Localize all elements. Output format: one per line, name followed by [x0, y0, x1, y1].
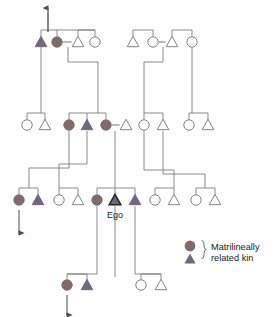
g3-sister-of-ego	[92, 195, 102, 205]
g2-female-filled-1	[64, 120, 74, 130]
g1-male-open-3	[127, 36, 139, 46]
g1-male-open-5	[166, 36, 178, 46]
legend-line-1: Matrilineally	[211, 242, 260, 252]
g3-female-open-2	[150, 195, 160, 205]
g2-female-open-1	[22, 120, 32, 130]
g3-male-open-1	[72, 194, 84, 204]
g3-female-open-1	[54, 195, 64, 205]
legend-filled-circle	[185, 241, 196, 252]
legend-line-2: related kin	[211, 253, 253, 263]
legend-brace	[202, 241, 207, 259]
legend-filled-triangle	[184, 254, 195, 264]
g2-female-open-3	[184, 120, 194, 130]
g1-female-open-4	[148, 37, 158, 47]
g3-female-filled-1	[14, 195, 24, 205]
g2-male-open-1	[39, 119, 51, 129]
kin-symbols	[14, 36, 221, 290]
g4-female-filled-1	[62, 280, 72, 290]
kinship-diagram: Ego Matrilineally related kin	[0, 0, 278, 317]
kinship-diagram-canvas: Ego Matrilineally related kin	[0, 0, 278, 317]
g4-female-open-1	[136, 280, 146, 290]
legend: Matrilineally related kin	[184, 241, 260, 264]
ego-label: Ego	[107, 210, 123, 220]
g1-female-open-6	[187, 37, 197, 47]
descent-lines	[19, 12, 215, 280]
g3-male-filled-1	[32, 194, 44, 204]
continuation-arrows	[19, 8, 67, 315]
g2-male-open-3	[202, 119, 214, 129]
g2-male-open-2	[157, 119, 169, 129]
g2-mother-of-ego	[101, 120, 111, 130]
g1-female-open-2	[90, 37, 100, 47]
g4-male-open-1	[155, 279, 167, 289]
g1-male-open	[72, 36, 84, 46]
g2-female-open-2	[139, 120, 149, 130]
g3-brother-of-ego	[129, 194, 141, 204]
g1-female-filled	[52, 37, 62, 47]
g1-male-filled	[35, 36, 47, 46]
g4-male-filled-1	[81, 279, 93, 289]
g3-female-open-3	[191, 195, 201, 205]
g3-male-open-3	[209, 194, 221, 204]
ego-symbol	[109, 194, 121, 204]
g2-male-filled-1	[81, 119, 93, 129]
g3-male-open-2	[168, 194, 180, 204]
g2-father-of-ego	[120, 119, 132, 129]
